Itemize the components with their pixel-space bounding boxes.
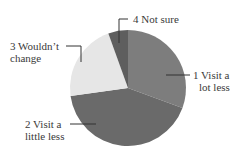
label-visit-a-little-less: 2 Visit a little less [25, 118, 64, 142]
label-wouldnt-change: 3 Wouldn’t change [10, 40, 59, 64]
label-not-sure: 4 Not sure [133, 13, 179, 25]
label-visit-a-lot-less: 1 Visit a lot less [193, 69, 230, 93]
